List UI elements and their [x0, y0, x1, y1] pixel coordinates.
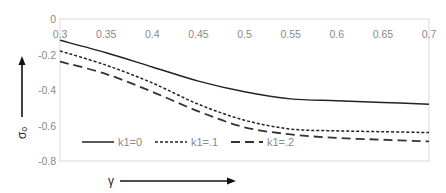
x-tick-label: 0.5 [237, 28, 252, 40]
y-tick-label: -0.4 [38, 84, 56, 96]
legend-label: k1=.1 [191, 136, 218, 148]
legend: k1=0k1=.1k1=.2 [82, 136, 294, 148]
series-line-k1=0 [60, 40, 429, 104]
data-series [60, 40, 429, 141]
x-axis-label: γ [108, 174, 114, 188]
x-tick-label: 0.3 [53, 28, 68, 40]
y-axis-arrow-icon [19, 56, 26, 117]
x-tick-label: 0.7 [422, 28, 437, 40]
y-tick-label: -0.8 [38, 155, 56, 167]
x-tick-label: 0.55 [280, 28, 301, 40]
line-chart: 0-0.2-0.4-0.6-0.8 0.30.350.40.450.50.550… [0, 0, 446, 193]
x-tick-label: 0.45 [188, 28, 209, 40]
x-axis-ticks: 0.30.350.40.450.50.550.60.650.7 [53, 28, 437, 40]
x-tick-label: 0.35 [96, 28, 117, 40]
y-tick-label: 0 [50, 13, 56, 25]
y-tick-label: -0.6 [38, 120, 56, 132]
y-tick-label: -0.2 [38, 49, 56, 61]
x-tick-label: 0.65 [373, 28, 394, 40]
x-tick-label: 0.6 [329, 28, 344, 40]
x-axis-arrow-icon [120, 178, 236, 185]
legend-label: k1=.2 [267, 136, 294, 148]
legend-label: k1=0 [118, 136, 142, 148]
x-tick-label: 0.4 [145, 28, 160, 40]
y-axis-label: σₒ [15, 127, 29, 139]
